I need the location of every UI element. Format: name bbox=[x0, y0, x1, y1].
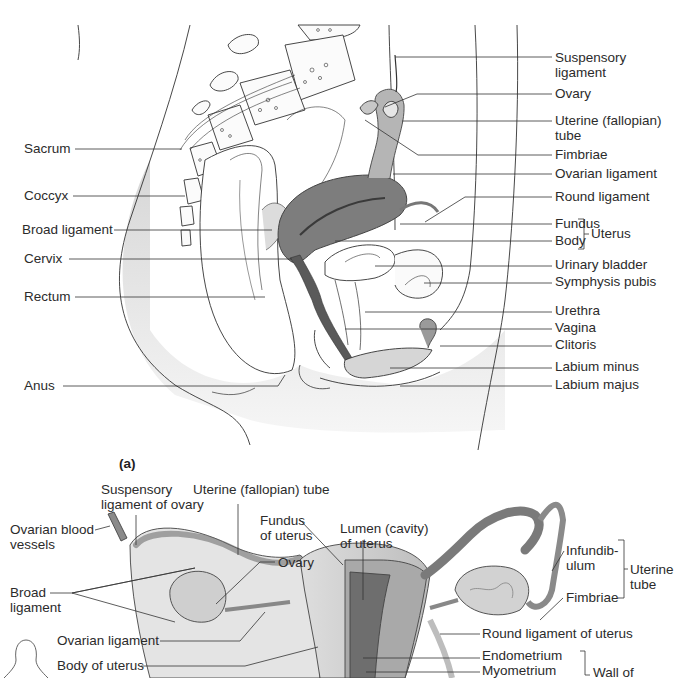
label-urinary-bladder: Urinary bladder bbox=[555, 257, 647, 272]
label-uterine-tube: Uterine (fallopian) tube bbox=[555, 113, 662, 143]
label-uterine-tube-group: Uterine tube bbox=[630, 562, 674, 592]
label-lumen-of-uterus: Lumen (cavity) of uterus bbox=[340, 521, 429, 551]
uterine-tube-bracket bbox=[618, 540, 628, 598]
label-ovarian-ligament-b: Ovarian ligament bbox=[57, 633, 159, 648]
label-body: Body bbox=[555, 233, 586, 248]
orientation-figure-icon bbox=[4, 640, 48, 678]
label-body-of-uterus: Body of uterus bbox=[57, 658, 144, 673]
label-coccyx: Coccyx bbox=[24, 188, 68, 203]
label-round-ligament: Round ligament bbox=[555, 189, 650, 204]
label-fimbriae: Fimbriae bbox=[555, 147, 608, 162]
label-suspensory-ligament: Suspensory ligament bbox=[555, 50, 626, 80]
label-clitoris: Clitoris bbox=[555, 337, 596, 352]
label-endometrium: Endometrium bbox=[482, 648, 562, 663]
label-ovary: Ovary bbox=[555, 86, 591, 101]
label-labium-majus: Labium majus bbox=[555, 377, 639, 392]
label-broad-ligament-b: Broad ligament bbox=[10, 585, 61, 615]
label-fimbriae-b: Fimbriae bbox=[566, 590, 619, 605]
label-ovarian-ligament: Ovarian ligament bbox=[555, 166, 657, 181]
wall-bracket bbox=[580, 651, 590, 675]
label-urethra: Urethra bbox=[555, 303, 600, 318]
label-infundibulum: Infundib- ulum bbox=[566, 543, 619, 573]
leader-round-ligament bbox=[425, 197, 552, 222]
panel-a-tag: (a) bbox=[119, 456, 136, 471]
label-uterus-group: Uterus bbox=[591, 226, 631, 241]
anatomy-figure: (a) Sacrum Coccyx Broad ligament Cervix … bbox=[0, 0, 690, 678]
leader-ovarian-blood-vessels bbox=[95, 526, 110, 530]
label-myometrium: Myometrium bbox=[482, 663, 556, 678]
label-sacrum: Sacrum bbox=[24, 141, 71, 156]
label-wall-of: Wall of bbox=[593, 665, 634, 678]
label-round-ligament-of-uterus: Round ligament of uterus bbox=[482, 626, 633, 641]
label-suspensory-ligament-of-ovary: Suspensory ligament of ovary bbox=[101, 482, 204, 512]
label-vagina: Vagina bbox=[555, 320, 596, 335]
label-ovarian-blood-vessels: Ovarian blood vessels bbox=[10, 522, 94, 552]
label-fundus-of-uterus: Fundus of uterus bbox=[260, 513, 313, 543]
label-broad-ligament: Broad ligament bbox=[22, 222, 113, 237]
label-ovary-b: Ovary bbox=[278, 555, 314, 570]
label-anus: Anus bbox=[24, 378, 55, 393]
leader-ovary bbox=[385, 94, 552, 107]
label-cervix: Cervix bbox=[24, 251, 62, 266]
label-labium-minus: Labium minus bbox=[555, 359, 639, 374]
label-rectum: Rectum bbox=[24, 289, 71, 304]
label-uterine-tube-b: Uterine (fallopian) tube bbox=[193, 482, 330, 497]
label-symphysis-pubis: Symphysis pubis bbox=[555, 274, 656, 289]
